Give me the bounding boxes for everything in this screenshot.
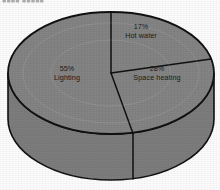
slice-name-space-heating: Space heating [118, 73, 196, 82]
slice-percent-lighting: 55% [36, 64, 98, 73]
slice-name-lighting: Lighting [36, 73, 98, 82]
slice-label-space-heating: 28% Space heating [118, 64, 196, 82]
slice-name-hot-water: Hot water [108, 31, 174, 40]
slice-label-hot-water: 17% Hot water [108, 22, 174, 40]
slice-percent-hot-water: 17% [108, 22, 174, 31]
slice-label-lighting: 55% Lighting [36, 64, 98, 82]
pie-chart-figure: ■■■■ ■■■■■ 17% Hot water 28% Space heati… [0, 0, 220, 190]
slice-percent-space-heating: 28% [118, 64, 196, 73]
